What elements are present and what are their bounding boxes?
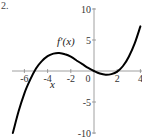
- chart: 2. -6-4-2024 105-5-10 f′(x) x: [0, 0, 142, 140]
- curve-label: f′(x): [57, 35, 75, 48]
- x-tick-label: -2: [67, 73, 75, 84]
- y-tick-label: 10: [81, 4, 91, 15]
- x-tick-label: 4: [138, 73, 142, 84]
- y-tick-label: -10: [78, 128, 91, 139]
- derivative-curve: [13, 26, 141, 133]
- x-tick-label: 0: [86, 73, 91, 84]
- y-tick-label: -5: [83, 97, 91, 108]
- x-tick-label: -6: [20, 73, 28, 84]
- x-tick-label: 2: [115, 73, 120, 84]
- figure-label: 2.: [1, 0, 9, 11]
- y-tick-label: 5: [86, 35, 91, 46]
- x-axis-label: x: [49, 78, 55, 90]
